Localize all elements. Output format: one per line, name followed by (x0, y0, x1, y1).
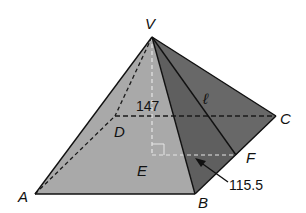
label-f: F (246, 149, 256, 166)
label-d: D (114, 123, 125, 140)
label-b: B (198, 194, 208, 211)
label-a: A (17, 188, 28, 205)
label-c: C (280, 110, 291, 127)
pyramid-diagram: V A B C D E F ℓ 147 115.5 (0, 0, 306, 213)
label-e: E (137, 162, 148, 179)
label-v: V (145, 15, 157, 32)
label-height: 147 (136, 98, 160, 114)
label-half-base: 115.5 (229, 177, 263, 193)
